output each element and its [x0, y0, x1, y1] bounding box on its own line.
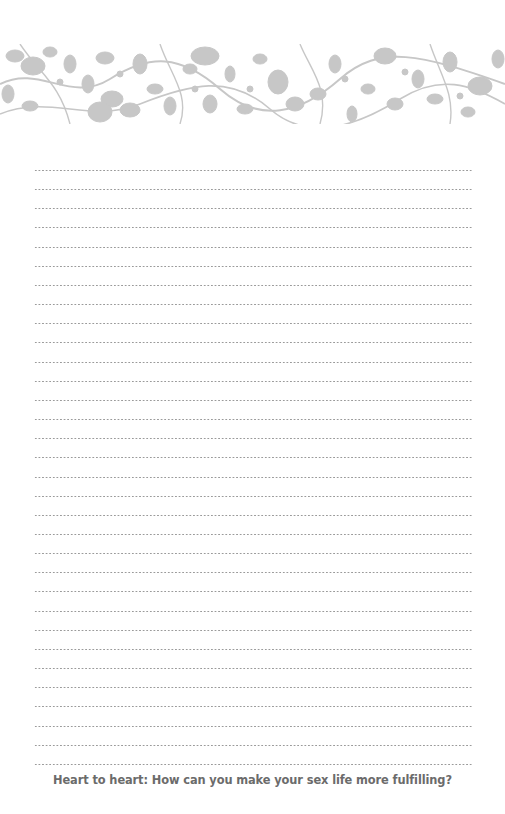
writing-line [34, 611, 472, 612]
writing-line [34, 630, 472, 631]
writing-line [34, 400, 472, 401]
writing-line [34, 745, 472, 746]
writing-line [34, 208, 472, 209]
writing-line [34, 764, 472, 765]
writing-line [34, 591, 472, 592]
writing-line [34, 534, 472, 535]
writing-line [34, 266, 472, 267]
writing-line [34, 687, 472, 688]
writing-line [34, 477, 472, 478]
writing-line [34, 553, 472, 554]
writing-line [34, 457, 472, 458]
writing-line [34, 342, 472, 343]
writing-line [34, 572, 472, 573]
writing-line [34, 726, 472, 727]
floral-banner [0, 44, 505, 124]
writing-line [34, 247, 472, 248]
writing-line [34, 649, 472, 650]
writing-line [34, 419, 472, 420]
writing-line [34, 362, 472, 363]
writing-line [34, 515, 472, 516]
writing-line [34, 285, 472, 286]
writing-line [34, 381, 472, 382]
floral-vine-icon [0, 44, 505, 124]
writing-line [34, 304, 472, 305]
writing-line [34, 323, 472, 324]
writing-line [34, 189, 472, 190]
writing-lines [34, 170, 472, 783]
writing-line [34, 668, 472, 669]
writing-line [34, 496, 472, 497]
writing-line [34, 438, 472, 439]
writing-line [34, 227, 472, 228]
writing-line [34, 706, 472, 707]
writing-line [34, 170, 472, 171]
journal-prompt: Heart to heart: How can you make your se… [0, 773, 505, 787]
